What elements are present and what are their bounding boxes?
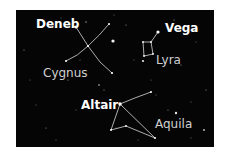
label-vega: Vega — [165, 22, 198, 34]
label-lyra: Lyra — [156, 54, 181, 66]
label-altair: Altair — [81, 99, 118, 111]
label-deneb: Deneb — [36, 18, 79, 30]
star-chart: Deneb Vega Lyra Cygnus Altair Aquila — [16, 10, 214, 147]
label-aquila: Aquila — [155, 118, 192, 130]
label-cygnus: Cygnus — [43, 67, 88, 79]
